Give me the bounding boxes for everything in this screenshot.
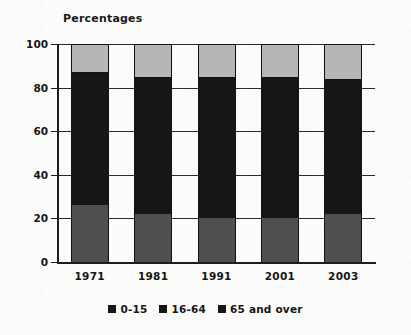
y-axis-tick-label: 60 <box>8 125 48 137</box>
chart-legend: 0-1516-6465 and over <box>0 303 411 315</box>
legend-item-16-64[interactable]: 16-64 <box>159 303 206 315</box>
bar-segment-1981-0-15[interactable] <box>135 214 171 262</box>
x-axis-tick-label-1991: 1991 <box>187 270 247 282</box>
legend-item-0-15[interactable]: 0-15 <box>108 303 147 315</box>
legend-item-65-and-over[interactable]: 65 and over <box>218 303 303 315</box>
x-axis-tick-label-2003: 2003 <box>313 270 373 282</box>
legend-swatch-icon <box>108 305 116 313</box>
y-axis-tick-labels: 020406080100 <box>4 0 48 335</box>
legend-swatch-icon <box>218 305 226 313</box>
x-axis-tick-label-1971: 1971 <box>60 270 120 282</box>
bar-segment-1991-65-and-over[interactable] <box>199 44 235 77</box>
bar-segment-2001-65-and-over[interactable] <box>262 44 298 77</box>
bar-segment-1991-0-15[interactable] <box>199 218 235 262</box>
chart-title: Percentages <box>63 12 143 25</box>
x-axis-tick-label-1981: 1981 <box>123 270 183 282</box>
bar-1971[interactable] <box>71 44 109 262</box>
x-axis-line <box>58 262 376 264</box>
y-axis-tick-mark <box>51 44 58 45</box>
bar-segment-1991-16-64[interactable] <box>199 77 235 219</box>
legend-swatch-icon <box>159 305 167 313</box>
chart-container: Percentages 020406080100 197119811991200… <box>0 0 411 335</box>
bar-segment-1981-65-and-over[interactable] <box>135 44 171 77</box>
y-axis-tick-mark <box>51 131 58 132</box>
y-axis-tick-label: 100 <box>8 38 48 50</box>
bar-segment-1971-65-and-over[interactable] <box>72 44 108 72</box>
legend-label: 0-15 <box>120 303 147 315</box>
bar-segment-2001-0-15[interactable] <box>262 218 298 262</box>
y-axis-tick-label: 40 <box>8 169 48 181</box>
y-axis-tick-label: 0 <box>8 256 48 268</box>
y-axis-tick-label: 80 <box>8 82 48 94</box>
bar-1981[interactable] <box>134 44 172 262</box>
bar-segment-1981-16-64[interactable] <box>135 77 171 214</box>
bar-segment-1971-0-15[interactable] <box>72 205 108 262</box>
y-axis-tick-mark <box>51 175 58 176</box>
x-axis-tick-label-2001: 2001 <box>250 270 310 282</box>
bar-segment-2003-65-and-over[interactable] <box>325 44 361 79</box>
bar-2003[interactable] <box>324 44 362 262</box>
bar-segment-2003-0-15[interactable] <box>325 214 361 262</box>
bar-segment-2003-16-64[interactable] <box>325 79 361 214</box>
y-axis-tick-mark <box>51 218 58 219</box>
y-axis-tick-mark <box>51 262 58 263</box>
plot-area <box>58 44 375 262</box>
y-axis-tick-mark <box>51 88 58 89</box>
bar-segment-2001-16-64[interactable] <box>262 77 298 219</box>
y-axis-line <box>57 44 59 264</box>
y-axis-tick-label: 20 <box>8 212 48 224</box>
bar-2001[interactable] <box>261 44 299 262</box>
bar-1991[interactable] <box>198 44 236 262</box>
legend-label: 65 and over <box>230 303 303 315</box>
legend-label: 16-64 <box>171 303 206 315</box>
bar-segment-1971-16-64[interactable] <box>72 72 108 205</box>
